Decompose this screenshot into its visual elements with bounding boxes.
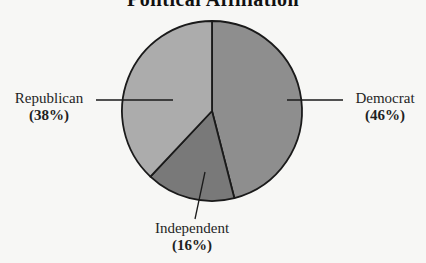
republican-label: Republican (38%) bbox=[4, 90, 94, 124]
republican-name: Republican bbox=[4, 90, 94, 107]
democrat-name: Democrat bbox=[344, 90, 426, 107]
independent-name: Independent bbox=[140, 220, 244, 237]
pie-slices bbox=[122, 21, 302, 201]
democrat-percent: (46%) bbox=[344, 107, 426, 124]
republican-percent: (38%) bbox=[4, 107, 94, 124]
independent-percent: (16%) bbox=[140, 237, 244, 254]
democrat-label: Democrat (46%) bbox=[344, 90, 426, 124]
independent-label: Independent (16%) bbox=[140, 220, 244, 254]
